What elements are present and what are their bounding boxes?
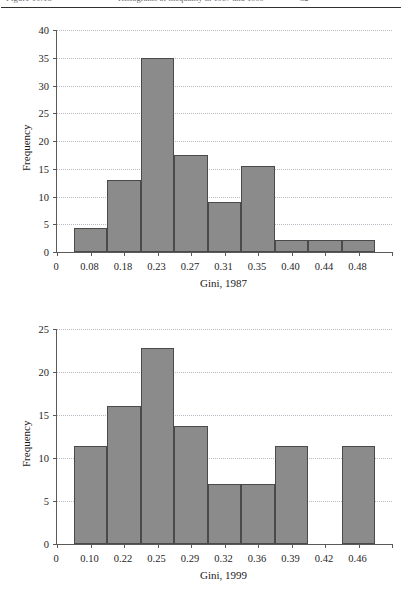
gridline [57,30,392,31]
x-tick-mark [225,544,226,548]
y-tick-mark [53,329,57,330]
y-tick-label: 5 [44,219,49,230]
y-axis-label: Frequency [20,125,32,171]
y-tick-mark [53,501,57,502]
gridline [57,329,392,330]
x-tick-label: 0.48 [348,261,366,272]
histogram-bar [241,484,275,544]
x-tick-mark [292,252,293,256]
y-tick-label: 15 [39,410,50,421]
histogram-bar [208,484,242,544]
histogram-bar [208,202,242,252]
histogram-bar [241,166,275,252]
x-tick-mark [292,544,293,548]
y-tick-mark [53,141,57,142]
y-tick-label: 5 [44,496,49,507]
x-tick-label: 0.27 [181,261,199,272]
x-tick-label: 0.31 [214,261,232,272]
plot-area-gini-1999 [56,329,392,545]
y-tick-label: 10 [39,191,50,202]
y-tick-label: 35 [39,52,50,63]
x-tick-mark [359,252,360,256]
y-tick-mark [53,58,57,59]
x-tick-label: 0.32 [214,553,232,564]
header-rule [1,7,401,8]
histogram-bar [174,155,208,252]
y-tick-label: 25 [39,108,50,119]
y-tick-mark [53,415,57,416]
y-tick-mark [53,372,57,373]
histogram-bar [74,446,108,544]
gridline [57,141,392,142]
y-tick-mark [53,30,57,31]
histogram-bar [342,446,376,544]
figure-caption-page: 32 [300,0,309,3]
histogram-bar [107,406,141,544]
histogram-bar [275,240,309,252]
gridline [57,169,392,170]
y-tick-label: 0 [44,247,49,258]
x-tick-label: 0 [53,553,58,564]
histogram-bar [141,58,175,252]
y-tick-mark [53,86,57,87]
x-tick-label: 0 [53,261,58,272]
x-axis-label: Gini, 1987 [200,277,247,289]
y-tick-label: 30 [39,80,50,91]
x-axis-label: Gini, 1999 [200,569,247,581]
chart-gini-1999: 051015202500.100.220.250.290.320.360.390… [0,325,403,594]
x-tick-label: 0.18 [114,261,132,272]
gridline [57,86,392,87]
x-tick-label: 0.35 [248,261,266,272]
x-tick-label: 0.46 [348,553,366,564]
y-tick-label: 20 [39,136,50,147]
y-tick-label: 25 [39,324,50,335]
x-tick-label: 0.36 [248,553,266,564]
x-tick-mark [91,252,92,256]
x-tick-label: 0.44 [315,261,333,272]
x-tick-mark [325,252,326,256]
x-tick-mark [158,252,159,256]
x-tick-label: 0.23 [147,261,165,272]
gridline [57,113,392,114]
x-tick-mark [359,544,360,548]
x-tick-mark [124,544,125,548]
x-tick-mark [325,544,326,548]
gridline [57,58,392,59]
x-tick-mark [225,252,226,256]
figure-caption-prefix: Figure 10.13 [6,0,52,3]
x-tick-label: 0.08 [80,261,98,272]
x-tick-label: 0.29 [181,553,199,564]
histogram-bar [141,348,175,544]
y-tick-mark [53,224,57,225]
plot-area-gini-1987 [56,30,392,253]
x-tick-mark [258,252,259,256]
x-tick-mark [158,544,159,548]
x-tick-mark [57,252,58,256]
y-tick-label: 20 [39,367,50,378]
figure-caption-text: Histograms of inequality in 1987 and 199… [118,0,264,3]
x-tick-label: 0.25 [147,553,165,564]
histogram-bar [275,446,309,544]
y-tick-mark [53,169,57,170]
x-tick-mark-end [392,544,393,548]
histogram-bar [174,426,208,544]
figure-caption: Figure 10.13 Histograms of inequality in… [0,0,403,7]
x-tick-mark [57,544,58,548]
y-tick-mark [53,113,57,114]
x-tick-mark [191,544,192,548]
histogram-bar [308,240,342,252]
x-tick-label: 0.39 [281,553,299,564]
x-tick-mark [191,252,192,256]
x-tick-label: 0.42 [315,553,333,564]
histogram-bar [74,228,108,252]
y-tick-label: 40 [39,25,50,36]
y-axis-label: Frequency [20,420,32,466]
x-tick-label: 0.22 [114,553,132,564]
chart-gini-1987: 051015202530354000.080.180.230.270.310.3… [0,26,403,312]
x-tick-label: 0.10 [80,553,98,564]
x-tick-mark [124,252,125,256]
y-tick-label: 10 [39,453,50,464]
x-tick-label: 0.40 [281,261,299,272]
histogram-bar [107,180,141,252]
x-tick-mark [258,544,259,548]
